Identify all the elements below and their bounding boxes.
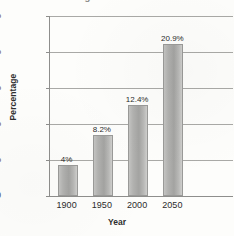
y-tick-mark: [46, 52, 49, 53]
x-axis-line: [49, 196, 233, 197]
y-tick-label: 0: [0, 190, 1, 200]
y-tick-label: 15%: [0, 82, 1, 92]
x-axis-title: Year: [47, 217, 187, 227]
y-tick-mark: [46, 88, 49, 89]
bar: [58, 165, 78, 196]
chart-title: Age 65 and Older: [38, 0, 198, 2]
bar: [93, 135, 113, 196]
y-tick-mark: [46, 196, 49, 197]
bar-chart-figure: Age 65 and Older Percentage 05%10%15%20%…: [0, 0, 234, 236]
y-tick-mark: [46, 124, 49, 125]
x-tick-label: 1900: [47, 200, 87, 210]
x-tick-label: 1950: [82, 200, 122, 210]
x-tick-label: 2000: [117, 200, 157, 210]
gridline: [50, 88, 233, 89]
y-tick-label: 20%: [0, 46, 1, 56]
gridline: [50, 16, 233, 17]
gridline: [50, 52, 233, 53]
bar-value-label: 8.2%: [82, 125, 122, 134]
bar: [163, 44, 183, 196]
y-tick-label: 10%: [0, 118, 1, 128]
bar: [128, 105, 148, 196]
bar-value-label: 12.4%: [117, 95, 157, 104]
bar-value-label: 4%: [47, 155, 87, 164]
y-tick-label: 5%: [0, 154, 1, 164]
x-tick-label: 2050: [152, 200, 192, 210]
y-axis-line: [49, 16, 50, 197]
y-tick-mark: [46, 16, 49, 17]
bar-value-label: 20.9%: [152, 34, 192, 43]
y-axis-title: Percentage: [8, 52, 18, 142]
y-tick-label: 25%: [0, 10, 1, 20]
plot-area: 05%10%15%20%25% 4%8.2%12.4%20.9% 1900195…: [49, 16, 190, 196]
